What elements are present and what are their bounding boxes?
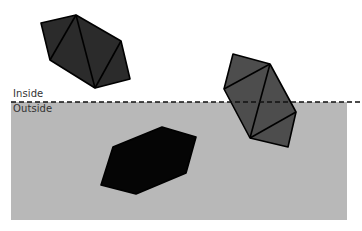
inside-label: Inside <box>13 89 43 99</box>
diagram-canvas <box>0 0 362 231</box>
outside-label: Outside <box>13 104 52 114</box>
inside-polygon <box>41 15 130 88</box>
